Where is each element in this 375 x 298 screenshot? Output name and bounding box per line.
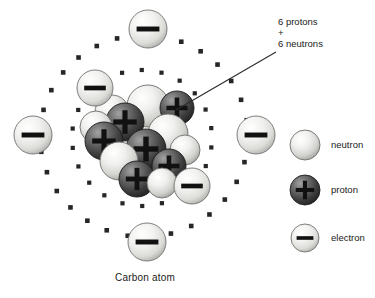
carbon-atom-diagram: 6 protons + 6 neutrons neutron proton el… [0,0,375,298]
orbit-dot [215,62,220,67]
orbit-dot [76,164,80,168]
legend-symbol-proton [290,175,320,205]
legend-label-proton: proton [331,184,358,195]
legend-symbol-electron [291,224,319,252]
electron-inner-lower-right [174,168,210,204]
orbit-dot [45,170,50,175]
orbit-dot [207,212,212,217]
orbit-dot [159,71,163,75]
orbit-dot [76,55,81,60]
orbit-dot [204,164,208,168]
annotation-neutrons: 6 neutrons [278,38,323,49]
orbit-dot [49,88,54,93]
orbit-dot [87,181,91,185]
orbit-dot [239,98,244,103]
electron-outer-right [237,116,275,154]
orbit-dot [71,126,75,130]
orbit-dot [160,201,164,205]
legend-label-neutron: neutron [331,139,363,150]
leader-line [176,52,276,110]
nucleus-neutron-5 [147,168,177,198]
orbit-dot [169,231,174,236]
orbit-dot [71,146,75,150]
orbit-dot [178,79,182,83]
diagram-caption: Carbon atom [0,272,290,283]
orbit-dot [41,108,46,113]
orbit-dot [223,197,228,202]
orbit-dot [104,228,109,233]
orbit-dot [120,71,124,75]
orbit-dot [234,180,239,185]
legend-label-electron: electron [331,232,365,243]
orbit-dot [193,91,197,95]
legend-symbol-neutron [290,130,320,160]
annotation-plus: + [278,27,284,38]
orbit-dot [203,107,207,111]
orbit-dot [85,218,90,223]
electron-inner-upper-left [77,70,113,106]
orbit-dot [54,189,59,194]
orbit-dot [198,49,203,54]
orbit-dot [209,126,213,130]
orbit-dot [102,193,106,197]
orbit-dot [140,204,144,208]
orbit-dot [242,160,247,165]
annotation-protons: 6 protons [278,16,318,27]
orbit-dot [179,39,184,44]
orbit-dot [209,145,213,149]
electron-outer-bottom [128,223,166,261]
orbit-dot [61,70,66,75]
annotation-leader-line [176,52,276,110]
orbit-dot [120,201,124,205]
electron-outer-top [129,10,167,48]
orbit-dot [68,205,73,210]
orbit-dot [94,44,99,49]
orbit-dot [115,36,120,41]
orbit-dot [140,68,144,72]
electron-outer-left [14,116,52,154]
orbit-dot [76,108,80,112]
orbit-dot [189,224,194,229]
legend-symbols [290,130,320,252]
